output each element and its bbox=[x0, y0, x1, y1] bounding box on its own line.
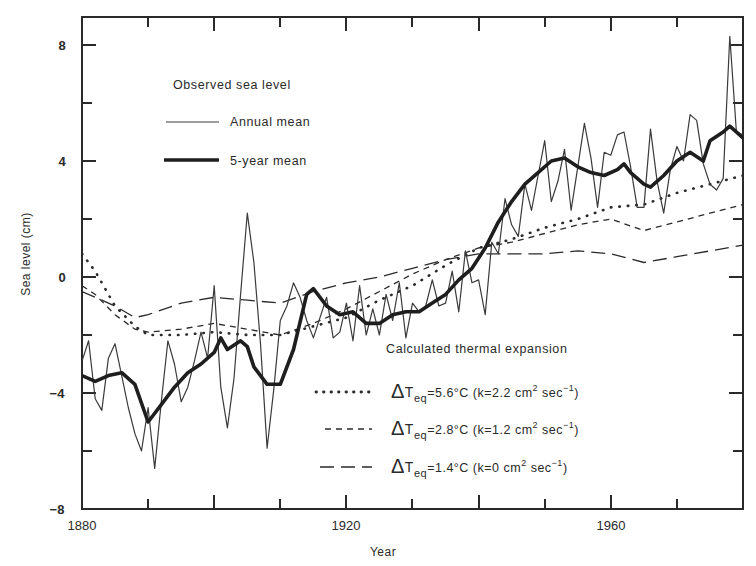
series-2-8c-short-dash bbox=[82, 205, 743, 336]
legend-entry-5-6: ΔTeq=5.6°C (k=2.2 cm2 sec−1) bbox=[391, 380, 579, 404]
sea-level-chart: 8 4 0 −4 −8 1880 1920 1960 Sea level (cm… bbox=[0, 0, 756, 566]
legend-entry-2-8: ΔTeq=2.8°C (k=1.2 cm2 sec−1) bbox=[391, 417, 579, 441]
x-tick-label: 1920 bbox=[332, 518, 361, 533]
series-annual-mean bbox=[82, 36, 743, 468]
y-tick-label: 0 bbox=[58, 270, 65, 285]
legend-thermal: Calculated thermal expansion ΔTeq=5.6°C … bbox=[316, 342, 579, 479]
legend-observed-title: Observed sea level bbox=[173, 78, 291, 92]
y-tick-label: 4 bbox=[58, 154, 66, 169]
series-5-year-mean bbox=[82, 126, 743, 422]
y-tick-label: 8 bbox=[58, 38, 65, 53]
legend-observed: Observed sea level Annual mean 5-year me… bbox=[164, 78, 310, 168]
y-tick-label: −4 bbox=[50, 386, 66, 401]
x-tick-label: 1880 bbox=[68, 518, 97, 533]
x-axis-title: Year bbox=[370, 545, 396, 559]
y-tick-label: −8 bbox=[50, 502, 65, 517]
series-1-4c-long-dash bbox=[82, 245, 743, 318]
x-tick-label: 1960 bbox=[597, 518, 626, 533]
legend-five-year-label: 5-year mean bbox=[230, 154, 307, 168]
legend-entry-1-4: ΔTeq=1.4°C (k=0 cm2 sec−1) bbox=[391, 455, 568, 479]
legend-thermal-title: Calculated thermal expansion bbox=[386, 342, 567, 356]
legend-annual-label: Annual mean bbox=[230, 115, 310, 129]
y-axis-title: Sea level (cm) bbox=[19, 212, 33, 296]
